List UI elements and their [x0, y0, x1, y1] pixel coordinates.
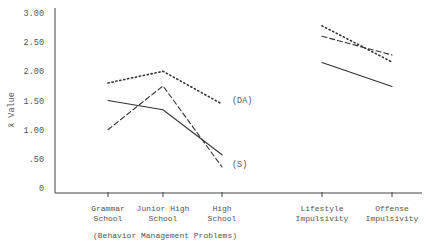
y-tick-label: 0 — [39, 184, 44, 194]
x-category-label: High — [212, 204, 231, 213]
y-tick-label: 1.00 — [24, 126, 44, 136]
x-category-label: Junior High — [137, 204, 190, 213]
x-category-label: Lifestyle — [300, 204, 343, 213]
x-category-label: Grammar — [91, 204, 125, 213]
y-tick-label: 2.00 — [24, 67, 44, 77]
series-dotted — [108, 26, 392, 104]
y-tick-label: 3.00 — [24, 9, 44, 19]
x-category-label: School — [94, 214, 123, 223]
x-category-label: Impulsivity — [296, 214, 349, 223]
x-category-label: School — [208, 214, 237, 223]
x-axis: GrammarSchoolJunior HighSchoolHighSchool… — [55, 192, 422, 240]
group-label: (Behavior Management Problems) — [93, 231, 237, 240]
annotation-s: (S) — [232, 160, 247, 170]
series-solid — [108, 63, 392, 155]
y-axis: 0.501.001.502.002.503.00 — [24, 8, 55, 194]
x-category-label: Offense — [375, 204, 409, 213]
line-chart: 0.501.001.502.002.503.00 GrammarSchoolJu… — [0, 0, 428, 244]
annotation-da: (DA) — [232, 96, 252, 106]
x-category-label: Impulsivity — [366, 214, 419, 223]
y-tick-label: .50 — [29, 155, 44, 165]
annotations: (DA)(S) — [232, 96, 252, 170]
y-tick-label: 1.50 — [24, 97, 44, 107]
y-axis-label: x̄ Value — [7, 92, 17, 128]
y-tick-label: 2.50 — [24, 38, 44, 48]
x-category-label: School — [149, 214, 178, 223]
